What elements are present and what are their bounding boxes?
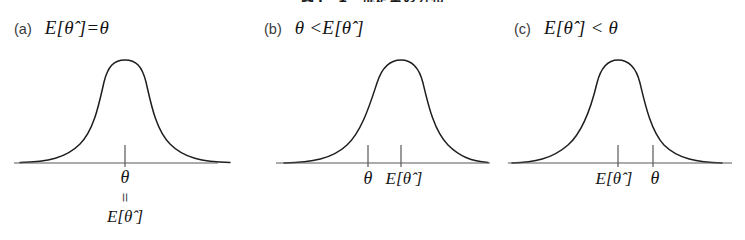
panel-a-heading: (a) E[θ̂ ]=θ (14, 17, 109, 39)
panel-c-curve-path (512, 60, 722, 163)
panel-b-heading: (b) θ <E[θ̂ ] (264, 17, 364, 39)
panel-c-plot (500, 40, 745, 170)
panel-a-stack-equals: = (117, 193, 134, 203)
panel-c-tick-label-0: E[θ̂ ] (595, 169, 632, 189)
panel-a-plot (0, 40, 250, 170)
panel-a-stack-expectation: E[θ̂ ] (107, 208, 143, 225)
panel-a-expression: E[θ̂ ]=θ (45, 17, 109, 39)
panel-b: (b) θ <E[θ̂ ] θ E[θ̂ ] (250, 0, 500, 240)
panel-c-tick-label-1: θ (650, 168, 659, 189)
panel-c-distribution-curve (500, 40, 745, 170)
panel-b-distribution-curve (250, 40, 500, 170)
panel-b-plot (250, 40, 500, 170)
panel-a-distribution-curve (0, 40, 250, 170)
panel-a-tag: (a) (14, 21, 32, 37)
panel-a: (a) E[θ̂ ]=θ θ = E[θ̂ ] (0, 0, 250, 240)
panel-a-stack-theta: θ (107, 168, 143, 186)
panel-c: (c) E[θ̂ ] < θ E[θ̂ ] θ (500, 0, 745, 240)
panel-b-expression: θ <E[θ̂ ] (295, 17, 364, 39)
panel-c-tag: (c) (514, 21, 531, 37)
panel-c-heading: (c) E[θ̂ ] < θ (514, 17, 618, 39)
panel-a-stacked-label: θ = E[θ̂ ] (107, 168, 143, 225)
panel-b-tag: (b) (264, 21, 282, 37)
figure-panels: (a) E[θ̂ ]=θ θ = E[θ̂ ] (b) θ <E[θ̂ ] (0, 0, 745, 240)
panel-c-expression: E[θ̂ ] < θ (544, 17, 618, 39)
panel-b-tick-label-1: E[θ̂ ] (385, 169, 422, 189)
panel-b-tick-label-0: θ (363, 168, 372, 189)
panel-b-curve-path (284, 60, 488, 163)
